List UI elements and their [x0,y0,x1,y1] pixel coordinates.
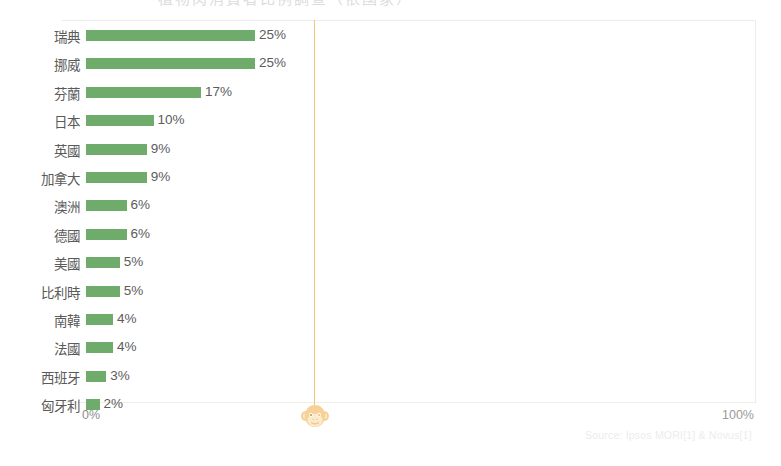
cropped-title-strip: 植物肉消費者比例調查（依國家） [0,0,781,13]
bar-value-label: 4% [117,338,137,356]
bar-value-label: 6% [131,196,151,214]
bar-category-label: 德國 [0,228,80,245]
bar-value-label: 17% [205,83,232,101]
bar-row: 澳洲6% [0,194,781,222]
bar-row: 比利時5% [0,280,781,308]
bar-category-label: 法國 [0,341,80,358]
bar-value-label: 9% [151,168,171,186]
bar [86,371,106,382]
bar-value-label: 5% [124,253,144,271]
bar-row: 英國9% [0,138,781,166]
bar [86,257,120,268]
bar-value-label: 10% [158,111,185,129]
bar [86,286,120,297]
bar [86,314,113,325]
bar-category-label: 日本 [0,114,80,131]
bar [86,229,127,240]
bar-row: 南韓4% [0,308,781,336]
bar-row: 西班牙3% [0,365,781,393]
bar-category-label: 南韓 [0,313,80,330]
bar-category-label: 英國 [0,143,80,160]
bar [86,58,255,69]
bar-value-label: 4% [117,310,137,328]
bar-category-label: 澳洲 [0,199,80,216]
bar-value-label: 3% [110,367,130,385]
bar-value-label: 6% [131,225,151,243]
bar-row: 美國5% [0,251,781,279]
bar-category-label: 瑞典 [0,29,80,46]
bar [86,172,147,183]
bar-category-label: 芬蘭 [0,86,80,103]
bar-category-label: 加拿大 [0,171,80,188]
bar-value-label: 25% [259,54,286,72]
bar-value-label: 25% [259,26,286,44]
bar-chart-rows: 瑞典25%挪威25%芬蘭17%日本10%英國9%加拿大9%澳洲6%德國6%美國5… [0,24,781,421]
bar-row: 加拿大9% [0,166,781,194]
bar-row: 法國4% [0,336,781,364]
bar [86,30,255,41]
bar [86,144,147,155]
bar-category-label: 比利時 [0,285,80,302]
bar-category-label: 挪威 [0,57,80,74]
bar-row: 匈牙利2% [0,393,781,421]
bar-row: 日本10% [0,109,781,137]
bar-value-label: 9% [151,140,171,158]
cropped-title-text: 植物肉消費者比例調查（依國家） [158,0,413,8]
x-axis-min-label: 0% [82,408,100,422]
bar-row: 芬蘭17% [0,81,781,109]
bar [86,87,201,98]
bar-category-label: 西班牙 [0,370,80,387]
bar-category-label: 匈牙利 [0,398,80,415]
bar-row: 瑞典25% [0,24,781,52]
bar-category-label: 美國 [0,256,80,273]
source-credit: Source: Ipsos MORI[1] & Novus[1] [585,429,752,441]
bar-row: 德國6% [0,223,781,251]
bar [86,342,113,353]
bar [86,115,154,126]
bar-value-label: 5% [124,282,144,300]
bar [86,200,127,211]
bar-value-label: 2% [104,395,124,413]
bar-row: 挪威25% [0,52,781,80]
monkey-face-logo [300,404,330,430]
x-axis-max-label: 100% [722,408,754,422]
